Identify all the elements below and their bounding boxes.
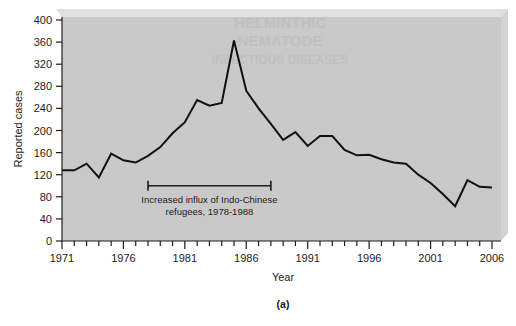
y-tick-label: 320 [34, 58, 52, 70]
line-chart: HELMINTHIC NEMATODE INFECTIOUS DISEASES … [0, 0, 516, 326]
y-tick-label: 0 [46, 235, 52, 247]
x-tick-label: 2006 [480, 252, 504, 264]
y-tick-label: 80 [40, 191, 52, 203]
y-tick-label: 160 [34, 147, 52, 159]
y-axis-title: Reported cases [12, 90, 24, 168]
x-tick-label: 1986 [234, 252, 258, 264]
y-tick-label: 40 [40, 213, 52, 225]
annotation-label-line-1: Increased influx of Indo-Chinese [141, 194, 277, 205]
panel-bevel-right [501, 9, 508, 241]
x-tick-label: 2001 [418, 252, 442, 264]
x-tick-label: 1981 [173, 252, 197, 264]
y-axis: 04080120160200240280320360400 [34, 14, 62, 247]
x-axis: 19711976198119861991199620012006 [50, 241, 504, 264]
x-tick-label: 1971 [50, 252, 74, 264]
x-axis-title: Year [272, 271, 295, 283]
bleed-line-2: NEMATODE [238, 32, 322, 49]
bleed-line-3: INFECTIOUS DISEASES [212, 53, 349, 67]
x-tick-label: 1996 [357, 252, 381, 264]
y-tick-label: 120 [34, 169, 52, 181]
figure-root: HELMINTHIC NEMATODE INFECTIOUS DISEASES … [0, 0, 516, 326]
figure-caption: (a) [277, 298, 290, 310]
y-tick-label: 200 [34, 125, 52, 137]
x-tick-label: 1991 [295, 252, 319, 264]
x-tick-label: 1976 [111, 252, 135, 264]
y-tick-label: 280 [34, 80, 52, 92]
bleed-line-1: HELMINTHIC [234, 14, 327, 31]
panel-background [62, 17, 501, 241]
y-tick-label: 240 [34, 102, 52, 114]
annotation-label-line-2: refugees, 1978-1988 [166, 206, 254, 217]
y-tick-label: 360 [34, 36, 52, 48]
y-tick-label: 400 [34, 14, 52, 26]
